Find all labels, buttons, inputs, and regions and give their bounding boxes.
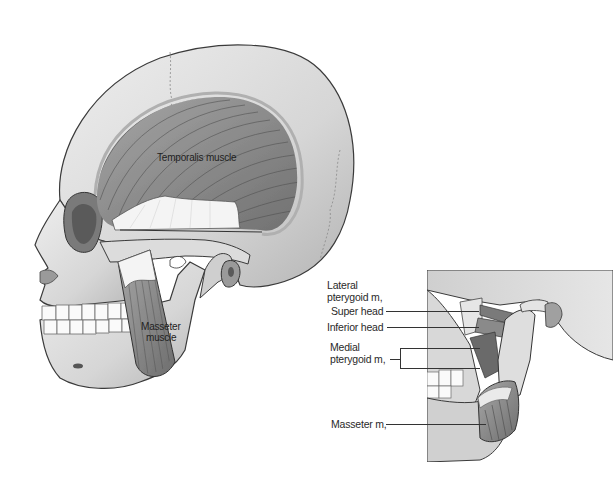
label-medial-pterygoid-line2: pterygoid m,	[330, 353, 385, 365]
skull-lateral-view	[35, 45, 354, 389]
teeth	[42, 303, 132, 334]
leader-medial-pterygoid-upper	[400, 348, 480, 349]
label-masseter-m: Masseter m,	[331, 418, 387, 430]
label-masseter-line2: muscle	[146, 332, 176, 344]
anatomy-figure: Temporalis muscle Masseter muscle Latera…	[0, 0, 613, 488]
label-medial-pterygoid-line1: Medial	[330, 341, 360, 353]
label-lateral-pterygoid-line2: pterygoid m,	[327, 291, 382, 303]
leader-super-head	[386, 311, 479, 312]
leader-medial-pterygoid-bracket	[400, 348, 401, 368]
leader-medial-pterygoid	[390, 359, 400, 360]
label-lateral-pterygoid-line1: Lateral	[327, 279, 358, 291]
leader-medial-pterygoid-lower	[400, 368, 480, 369]
label-temporalis-muscle: Temporalis muscle	[157, 152, 236, 164]
leader-masseter-m	[386, 424, 486, 425]
label-super-head: Super head	[331, 305, 383, 317]
leader-inferior-head	[387, 327, 479, 328]
inset-pterygoid-view	[427, 270, 613, 462]
label-inferior-head: Inferior head	[327, 321, 383, 333]
